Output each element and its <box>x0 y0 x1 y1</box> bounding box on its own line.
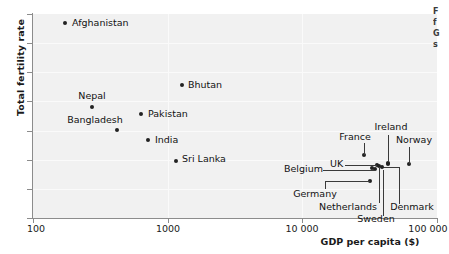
caption-line-1: F <box>433 6 449 17</box>
label-sri-lanka: Sri Lanka <box>182 154 226 164</box>
caption-line-2: f <box>433 17 449 28</box>
leader-ireland <box>388 135 389 163</box>
point-sri-lanka <box>174 159 178 163</box>
gridline-y-4 <box>33 101 437 102</box>
leader-sweden <box>383 170 384 216</box>
label-ireland: Ireland <box>375 122 408 132</box>
label-nepal: Nepal <box>78 91 105 101</box>
leader-norway <box>409 147 410 164</box>
leader-denmark-v <box>399 167 400 204</box>
y-tick-4 <box>27 101 32 102</box>
y-tick-7 <box>27 14 32 15</box>
label-germany: Germany <box>293 189 337 199</box>
x-tick-label-1000: 1000 <box>156 224 180 234</box>
label-denmark: Denmark <box>390 202 434 212</box>
label-india: India <box>155 135 178 145</box>
caption-line-3: G <box>433 28 449 39</box>
x-tick-label-100000: 100 000 <box>408 224 447 234</box>
point-bhutan <box>180 83 184 87</box>
label-france: France <box>339 132 371 142</box>
caption-line-4: s <box>433 39 449 50</box>
point-nepal <box>90 105 94 109</box>
y-axis-line <box>32 13 33 219</box>
gridline-y-6 <box>33 43 437 44</box>
caption-fragment: F f G s <box>433 6 449 58</box>
x-tick-label-10000: 10 000 <box>285 224 318 234</box>
leader-france <box>364 143 365 155</box>
y-axis-title: Total fertility rate <box>15 10 26 126</box>
label-bangladesh: Bangladesh <box>67 115 123 125</box>
leader-netherlands <box>379 168 380 203</box>
point-india <box>146 138 150 142</box>
gridline-y-5 <box>33 72 437 73</box>
point-pakistan <box>139 112 143 116</box>
gridline-y-2 <box>33 160 437 161</box>
y-tick-0 <box>27 218 32 219</box>
y-tick-6 <box>27 43 32 44</box>
point-bangladesh <box>115 128 119 132</box>
point-denmark <box>386 162 390 166</box>
x-tick-label-100: 100 <box>27 224 45 234</box>
label-sweden: Sweden <box>357 214 395 224</box>
x-axis-title: GDP per capita ($) <box>300 236 440 247</box>
label-belgium: Belgium <box>284 164 323 174</box>
point-cluster-a <box>370 166 374 170</box>
leader-belgium <box>323 170 375 171</box>
point-sweden <box>380 165 384 169</box>
y-tick-2 <box>27 160 32 161</box>
y-tick-5 <box>27 72 32 73</box>
label-afghanistan: Afghanistan <box>72 18 129 28</box>
point-afghanistan <box>63 21 67 25</box>
y-tick-1 <box>27 189 32 190</box>
y-tick-3 <box>27 131 32 132</box>
figure-scatter-fertility-vs-gdp: 7 6 5 4 3 2 1 0 100 1000 10 000 100 000 … <box>0 0 449 254</box>
gridline-y-1 <box>33 189 437 190</box>
leader-germany-h <box>325 181 370 182</box>
label-bhutan: Bhutan <box>188 80 222 90</box>
label-uk: UK <box>330 159 343 169</box>
label-netherlands: Netherlands <box>319 202 377 212</box>
label-norway: Norway <box>396 135 432 145</box>
label-pakistan: Pakistan <box>148 109 188 119</box>
